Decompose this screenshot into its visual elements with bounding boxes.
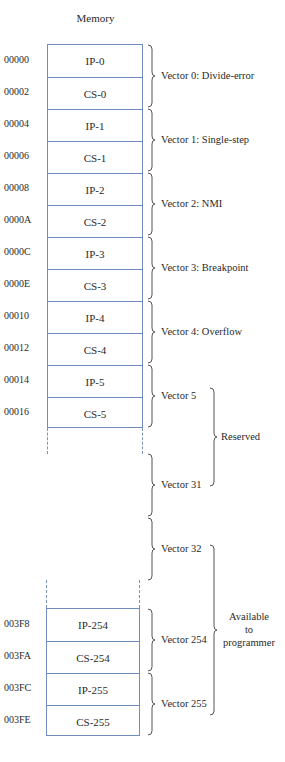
- brace-vector-32: [148, 518, 155, 580]
- vector-label: Vector 1: Single-step: [161, 134, 249, 145]
- brace-vector-254: [148, 609, 155, 671]
- vector-label: Vector 254: [161, 634, 207, 645]
- brace-reserved: [210, 388, 217, 486]
- brace-vector-31: [148, 454, 155, 516]
- brace-vector-1: [148, 109, 155, 171]
- vector-label: Vector 0: Divide-error: [161, 70, 254, 81]
- brace-vector-4: [148, 301, 155, 363]
- vector-label: Vector 3: Breakpoint: [161, 262, 248, 273]
- brace-vector-5: [148, 365, 155, 427]
- vector-label: Vector 31: [161, 479, 202, 490]
- vector-label: Vector 2: NMI: [161, 198, 222, 209]
- brace-vector-255: [148, 673, 155, 735]
- brace-vector-3: [148, 237, 155, 299]
- available-line: Available: [214, 610, 284, 623]
- vector-label: Vector 32: [161, 543, 202, 554]
- reserved-label: Reserved: [221, 431, 260, 442]
- brace-vector-2: [148, 173, 155, 235]
- available-line: programmer: [214, 636, 284, 649]
- available-line: to: [214, 623, 284, 636]
- vector-label: Vector 5: [161, 390, 196, 401]
- brace-vector-0: [148, 45, 155, 107]
- vector-label: Vector 255: [161, 698, 207, 709]
- vector-label: Vector 4: Overflow: [161, 326, 242, 337]
- available-label: Available to programmer: [214, 610, 284, 649]
